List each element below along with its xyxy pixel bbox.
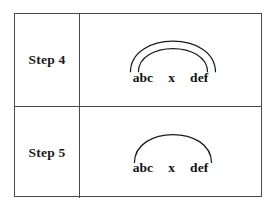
arc-outer-abc-to-def xyxy=(134,135,211,164)
arc-diagram-step5 xyxy=(80,107,261,198)
step-label: Step 4 xyxy=(29,52,66,68)
arc-diagram-cell-step5: abc x def xyxy=(80,107,261,198)
arc-inner-abc-to-def xyxy=(138,49,207,73)
table-row: Step 5 abc x def xyxy=(15,107,261,198)
step-label-cell: Step 5 xyxy=(15,107,80,198)
table-row: Step 4 abc x def xyxy=(15,14,261,107)
figure-root: Step 4 abc x def Step 5 xyxy=(0,0,274,210)
step-label-cell: Step 4 xyxy=(15,14,80,106)
arc-diagram-cell-step4: abc x def xyxy=(80,14,261,106)
arc-outer-abc-to-def xyxy=(130,41,215,72)
step-table: Step 4 abc x def Step 5 xyxy=(14,13,262,197)
arc-diagram-step4 xyxy=(80,14,261,106)
step-label: Step 5 xyxy=(29,145,66,161)
